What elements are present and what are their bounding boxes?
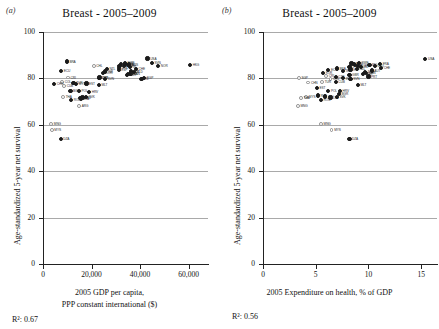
data-point-label: MLT <box>101 83 107 87</box>
data-point <box>156 64 160 68</box>
data-point <box>367 63 371 67</box>
data-point-label: NZL <box>109 67 115 71</box>
x-tick-label-0: 0 <box>243 270 283 279</box>
x-tick-0 <box>43 265 44 269</box>
y-tick-60 <box>259 125 263 126</box>
data-point <box>87 90 91 94</box>
data-point <box>319 98 323 102</box>
panel-b-title: Breast - 2005–2009 <box>220 7 439 19</box>
data-point <box>59 69 63 73</box>
data-point <box>334 80 338 84</box>
data-point <box>68 89 72 93</box>
data-point-label: BEL <box>372 63 378 67</box>
data-point <box>62 84 66 88</box>
y-tick-label-0: 0 <box>9 259 35 268</box>
data-point <box>356 83 360 87</box>
x-tick-15 <box>421 265 422 269</box>
data-point <box>150 61 154 65</box>
y-tick-label-80: 80 <box>9 73 35 82</box>
x-tick-0 <box>263 265 264 269</box>
panel-a: (a) Breast - 2005–2009 020406080100020,0… <box>0 0 219 329</box>
data-point <box>297 76 301 80</box>
data-point-label: HKG <box>193 63 200 67</box>
data-point-label: USA <box>150 57 156 61</box>
data-point <box>359 65 363 69</box>
data-point-label: SGP <box>301 76 307 80</box>
data-point-label: PRT <box>371 75 377 79</box>
data-point <box>296 104 300 108</box>
panel-b-x-axis-label-line1: 2005 Expenditure on health, % of GDP <box>220 288 439 297</box>
data-point-label: SVK <box>89 95 95 99</box>
data-point <box>97 83 101 87</box>
y-tick-40 <box>259 171 263 172</box>
data-point-label: HRV <box>92 90 98 94</box>
x-tick-label-40000: 40,000 <box>120 270 160 279</box>
x-axis-line <box>43 264 209 265</box>
panel-a-title: Breast - 2005–2009 <box>0 7 219 19</box>
data-point <box>69 98 73 102</box>
data-point <box>61 95 65 99</box>
y-axis-line <box>263 32 264 265</box>
data-point-label: FRA <box>383 62 389 66</box>
data-point-label: EST <box>319 86 325 90</box>
data-point <box>370 68 374 72</box>
data-point <box>84 81 88 85</box>
data-point-label: BGR <box>73 89 80 93</box>
y-tick-label-80: 80 <box>229 73 255 82</box>
data-point <box>188 63 192 67</box>
data-point-label: SVN <box>353 77 359 81</box>
y-tick-40 <box>39 171 43 172</box>
data-point-label: DZA <box>352 137 358 141</box>
y-tick-100 <box>39 32 43 33</box>
data-point-label: GBR <box>352 73 359 77</box>
panel-a-plot-area: 020406080100020,00040,00060,000BRAECUCRI… <box>43 32 208 264</box>
data-point-label: KOR <box>326 71 333 75</box>
x-tick-label-5: 5 <box>296 270 336 279</box>
data-point-label: MLT <box>361 83 367 87</box>
data-point <box>341 69 345 73</box>
panel-b-plot-area: 020406080100051015USACHNCRIECUBRACOLTURC… <box>263 32 437 264</box>
data-point <box>103 77 107 81</box>
y-tick-label-100: 100 <box>9 27 35 36</box>
data-point <box>321 71 325 75</box>
gridline-y-100 <box>263 32 437 33</box>
panel-a-r-squared: R²: 0.67 <box>12 315 38 324</box>
data-point-label: SVN <box>108 77 114 81</box>
data-point-label: THA <box>304 96 310 100</box>
data-point-label: MNG <box>324 122 331 126</box>
x-tick-label-60000: 60,000 <box>169 270 209 279</box>
data-point <box>316 93 320 97</box>
data-point <box>330 128 334 132</box>
data-point <box>306 81 310 85</box>
data-point <box>334 75 338 79</box>
data-point-label: BRA <box>69 60 75 64</box>
gridline-y-20 <box>43 218 208 219</box>
data-point <box>326 89 330 93</box>
data-point-label: DZA <box>63 137 69 141</box>
gridline-y-60 <box>43 125 208 126</box>
x-tick-5 <box>316 265 317 269</box>
data-point <box>335 66 339 70</box>
data-point-label: ECU <box>64 69 70 73</box>
data-point <box>50 128 54 132</box>
data-point <box>74 82 78 86</box>
gridline-y-100 <box>43 32 208 33</box>
y-tick-100 <box>259 32 263 33</box>
gridline-y-40 <box>263 171 437 172</box>
data-point <box>366 74 370 78</box>
data-point <box>347 137 351 141</box>
data-point <box>97 75 101 79</box>
data-point <box>92 64 96 68</box>
data-point-label: EST <box>89 82 95 86</box>
data-point <box>134 67 138 71</box>
gridline-y-20 <box>263 218 437 219</box>
data-point-label: ROU <box>74 98 81 102</box>
x-tick-60000 <box>189 265 190 269</box>
data-point <box>320 80 324 84</box>
y-tick-80 <box>39 78 43 79</box>
data-point <box>335 95 339 99</box>
x-tick-label-20000: 20,000 <box>72 270 112 279</box>
data-point <box>59 137 63 141</box>
panel-b-r-squared: R²: 0.56 <box>232 312 258 321</box>
panel-a-x-axis-label-line1: 2005 GDP per capita, <box>0 288 219 297</box>
